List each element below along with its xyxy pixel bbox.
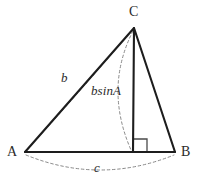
length-label-c: c: [94, 161, 100, 174]
measure-arc-c: [26, 155, 174, 170]
length-label-bsina: bsinA: [91, 84, 121, 97]
vertex-label-c: C: [129, 5, 138, 19]
altitude-line: [133, 29, 134, 152]
side-cb: [134, 28, 175, 152]
vertex-label-a: A: [7, 145, 17, 159]
triangle-diagram: A B C b bsinA c: [0, 0, 198, 186]
vertex-label-b: B: [181, 145, 190, 159]
right-angle-marker: [134, 139, 147, 152]
length-label-b: b: [61, 71, 68, 84]
